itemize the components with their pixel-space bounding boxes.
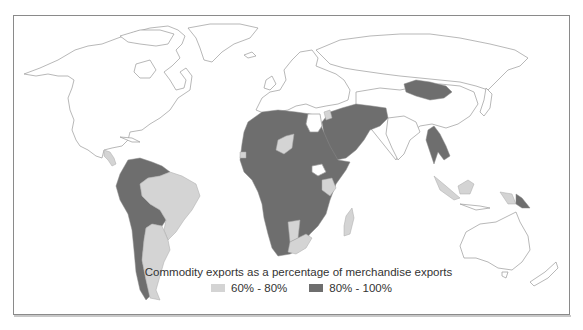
java (460, 204, 490, 210)
legend-item-60-80: 60% - 80% (211, 282, 287, 294)
myanmar-laos (426, 126, 450, 164)
central-america (104, 150, 116, 166)
legend-label-60-80: 60% - 80% (231, 282, 287, 294)
uk (264, 76, 276, 90)
japan (480, 88, 492, 116)
swatch-dark (309, 284, 323, 292)
egypt (306, 114, 322, 132)
legend-title: Commodity exports as a percentage of mer… (14, 266, 583, 278)
madagascar (344, 208, 354, 236)
sumatra (434, 176, 460, 200)
legend-item-80-100: 80% - 100% (309, 282, 392, 294)
australia (460, 212, 530, 270)
borneo (458, 180, 474, 194)
legend: Commodity exports as a percentage of mer… (0, 266, 583, 294)
papua-new-guinea (516, 194, 530, 208)
legend-items: 60% - 80% 80% - 100% (20, 282, 583, 294)
senegal (240, 152, 246, 158)
new-guinea-west (500, 192, 516, 204)
legend-label-80-100: 80% - 100% (329, 282, 392, 294)
north-america (24, 26, 192, 158)
iceland (244, 52, 256, 58)
swatch-light (211, 284, 225, 292)
